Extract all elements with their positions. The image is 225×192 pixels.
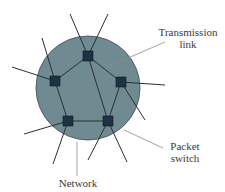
switch-left [50,76,60,86]
packet-switch-label-line2: switch [163,152,207,164]
transmission-link-label: Transmission link [155,26,221,50]
network-label: Network [58,177,98,189]
packet-switch-label-line1: Packet [163,140,207,152]
switch-right [116,77,126,87]
switch-bottom-right [103,116,113,126]
switch-bottom-left [63,116,73,126]
transmission-link-label-line1: Transmission [155,26,221,38]
transmission-link-label-line2: link [155,38,221,50]
packet-switch-label: Packet switch [163,140,207,164]
switch-top [83,51,93,61]
